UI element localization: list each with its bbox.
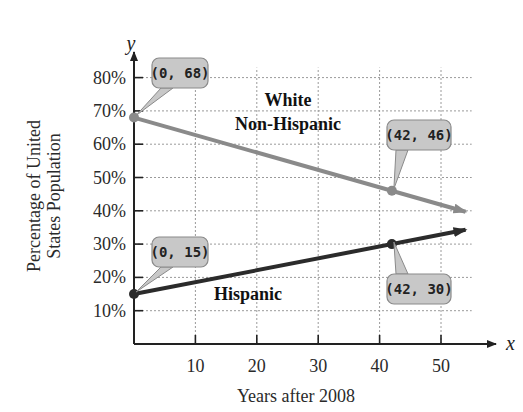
x-tick-label: 20 — [248, 356, 266, 376]
callout: (0, 68) — [136, 58, 210, 116]
line-chart: y x 102030405010%20%30%40%50%60%70%80% P… — [0, 0, 523, 412]
y-axis-title-line-2: States Population — [44, 133, 64, 259]
y-axis-title: Percentage of United States Population — [24, 120, 64, 272]
series-label-white-line-1: White — [265, 90, 312, 110]
x-axis-title: Years after 2008 — [237, 386, 355, 406]
x-axis-variable: x — [505, 332, 515, 354]
y-tick-label: 50% — [93, 168, 126, 188]
y-tick-label: 60% — [93, 134, 126, 154]
callout-text: (42, 30) — [385, 281, 452, 297]
y-axis-variable: y — [125, 32, 136, 55]
x-tick-label: 30 — [309, 356, 327, 376]
y-axis-title-line-1: Percentage of United — [24, 120, 44, 272]
y-tick-label: 80% — [93, 68, 126, 88]
data-point — [387, 186, 397, 196]
series-label-white-line-2: Non-Hispanic — [235, 114, 341, 134]
callout: (42, 30) — [385, 242, 452, 304]
callout-text: (0, 68) — [150, 65, 209, 81]
y-tick-label: 70% — [93, 101, 126, 121]
x-tick-label: 40 — [371, 356, 389, 376]
y-tick-label: 30% — [93, 234, 126, 254]
callout-text: (42, 46) — [385, 127, 452, 143]
series-label-hispanic: Hispanic — [214, 284, 282, 304]
y-tick-label: 10% — [93, 301, 126, 321]
callout: (42, 46) — [385, 120, 452, 189]
x-tick-label: 10 — [186, 356, 204, 376]
x-tick-label: 50 — [432, 356, 450, 376]
y-tick-label: 20% — [93, 267, 126, 287]
y-tick-label: 40% — [93, 201, 126, 221]
callout-text: (0, 15) — [150, 244, 209, 260]
callout: (0, 15) — [136, 237, 210, 292]
